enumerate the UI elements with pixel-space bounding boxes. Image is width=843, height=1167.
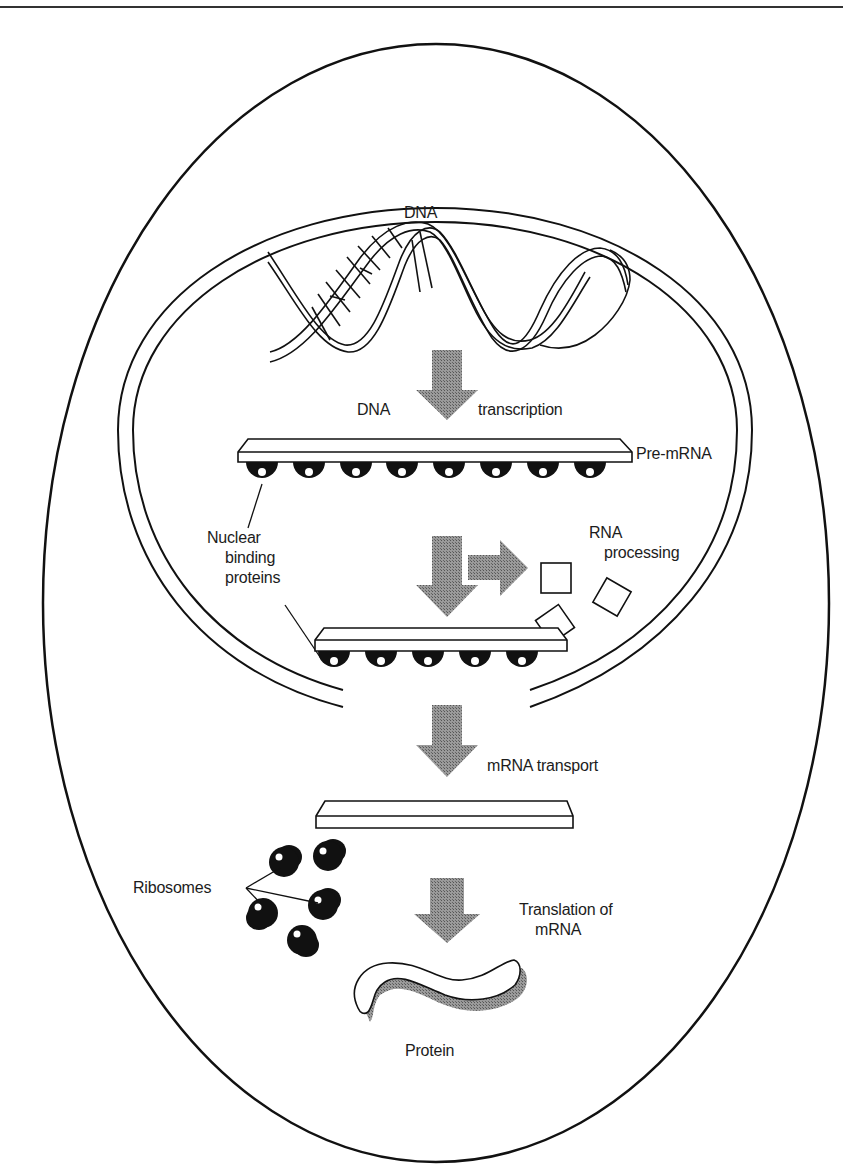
ribosomes — [246, 839, 346, 957]
nuclear-binding-label-line3: proteins — [225, 568, 280, 587]
mrna-transport-arrow — [416, 705, 478, 777]
rna-processing-label-line2: processing — [604, 543, 679, 562]
translation-arrow — [414, 878, 480, 943]
protein — [355, 960, 527, 1022]
pre-mrna-label: Pre-mRNA — [636, 444, 712, 463]
processed-mrna-strand — [315, 628, 567, 651]
cell-diagram — [0, 0, 843, 1167]
transcription-label: transcription — [478, 400, 563, 419]
nuclear-binding-proteins-row-1 — [246, 462, 606, 478]
dna-helix — [268, 222, 630, 362]
mrna-transport-label: mRNA transport — [487, 756, 598, 775]
cytoplasmic-mrna-strand — [316, 801, 573, 828]
dna-label: DNA — [404, 203, 437, 222]
protein-label: Protein — [405, 1041, 454, 1060]
translation-label-line1: Translation of — [519, 900, 613, 919]
nuclear-binding-label-line2: binding — [225, 548, 275, 567]
dna-step-label: DNA — [357, 400, 390, 419]
transcription-arrow — [416, 350, 478, 420]
translation-label-line2: mRNA — [535, 920, 581, 939]
nuclear-binding-label-line1: Nuclear — [207, 528, 261, 547]
rna-processing-arrow — [468, 540, 528, 596]
nuclear-binding-proteins-row-2 — [318, 651, 538, 667]
pre-mrna-strand — [238, 439, 632, 462]
ribosomes-label: Ribosomes — [133, 878, 211, 897]
rna-processing-label-line1: RNA — [589, 523, 622, 542]
